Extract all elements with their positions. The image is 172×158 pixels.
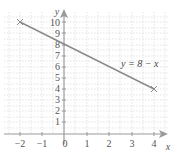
- x-tick-label: 2: [107, 138, 112, 149]
- y-tick-label: 7: [55, 50, 60, 61]
- x-axis-label: x: [165, 141, 171, 152]
- y-tick-label: 5: [55, 72, 60, 83]
- x-tick-label: −1: [37, 138, 48, 149]
- y-tick-label: 4: [55, 83, 60, 94]
- y-tick-label: 1: [55, 116, 60, 127]
- y-tick-label: 6: [55, 61, 60, 72]
- y-axis-label: y: [54, 6, 60, 17]
- line-chart: −2 −1 0 1 2 3 4 1 2 3 4 5 6 7 8 9 10 x y…: [0, 0, 172, 158]
- axes: [4, 16, 162, 144]
- grid: [4, 12, 168, 134]
- y-tick-labels: 1 2 3 4 5 6 7 8 9 10: [50, 17, 60, 127]
- x-tick-label: −2: [15, 138, 26, 149]
- x-tick-label: 0: [63, 138, 68, 149]
- x-tick-labels: −2 −1 0 1 2 3 4: [15, 138, 157, 149]
- equation-label: y = 8 − x: [120, 58, 159, 69]
- y-tick-label: 3: [55, 94, 60, 105]
- y-tick-label: 10: [50, 17, 60, 28]
- y-tick-label: 9: [55, 28, 60, 39]
- x-tick-label: 1: [85, 138, 90, 149]
- y-tick-label: 2: [55, 105, 60, 116]
- x-tick-label: 4: [152, 138, 157, 149]
- x-tick-label: 3: [130, 138, 135, 149]
